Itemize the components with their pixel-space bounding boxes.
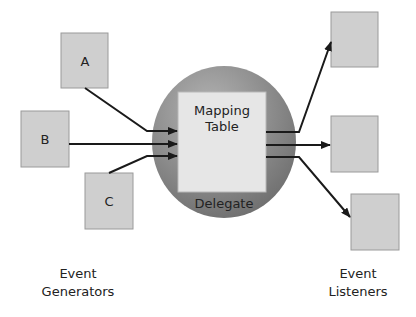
generator-label-a: A [81,54,90,69]
generator-label-b: B [41,132,50,147]
listener-box-1 [331,12,378,67]
mapping-table-label-line2: Table [204,119,239,134]
caption-listeners-line2: Listeners [328,284,387,299]
delegate-label: Delegate [195,196,254,211]
caption-generators-line1: Event [59,266,96,281]
caption-listeners-line1: Event [339,266,376,281]
caption-generators-line2: Generators [42,284,115,299]
generator-label-c: C [104,194,113,209]
delegate-diagram: Mapping Table Delegate A B C Event Gener… [0,0,416,317]
listener-box-3 [351,194,399,250]
listener-box-2 [331,116,378,172]
mapping-table-label-line1: Mapping [194,103,250,118]
